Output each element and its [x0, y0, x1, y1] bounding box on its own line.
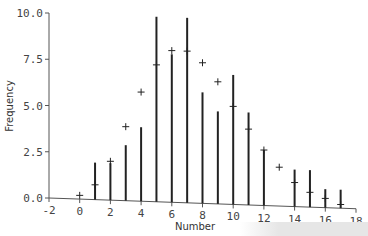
plus-marker-icon: [214, 78, 221, 85]
expected-markers: [76, 47, 344, 208]
plus-marker-icon: [122, 123, 129, 130]
x-tick-label: 4: [138, 207, 145, 220]
y-tick-label: 10.0: [17, 7, 44, 20]
y-tick-label: 0.0: [23, 192, 43, 205]
plus-marker-icon: [107, 158, 114, 165]
chart: 0.02.55.07.510.0-2024681012141618 Freque…: [0, 0, 368, 236]
x-axis-title: Number: [175, 221, 216, 232]
photo-shadow: [240, 222, 368, 236]
x-tick-label: -2: [42, 204, 55, 217]
plus-marker-icon: [276, 164, 283, 171]
y-tick-label: 7.5: [23, 53, 43, 66]
plus-marker-icon: [260, 147, 267, 154]
plus-marker-icon: [168, 47, 175, 54]
x-tick-label: 0: [76, 205, 83, 218]
plus-marker-icon: [230, 103, 237, 110]
y-tick-label: 5.0: [23, 100, 43, 113]
plus-marker-icon: [322, 195, 329, 202]
plus-marker-icon: [245, 126, 252, 133]
plus-marker-icon: [153, 61, 160, 68]
x-tick-label: 6: [168, 208, 175, 221]
x-tick-label: 2: [107, 206, 114, 219]
plus-marker-icon: [337, 201, 344, 208]
plus-marker-icon: [199, 59, 206, 66]
plus-marker-icon: [138, 89, 145, 96]
observed-bars: [95, 17, 341, 208]
y-axis-title: Frequency: [4, 80, 15, 132]
plus-marker-icon: [291, 179, 298, 186]
y-tick-label: 2.5: [23, 146, 43, 159]
plus-marker-icon: [76, 192, 83, 199]
plus-marker-icon: [92, 181, 99, 188]
x-tick-label: 10: [227, 210, 240, 223]
plus-marker-icon: [184, 48, 191, 55]
plus-marker-icon: [306, 189, 313, 196]
